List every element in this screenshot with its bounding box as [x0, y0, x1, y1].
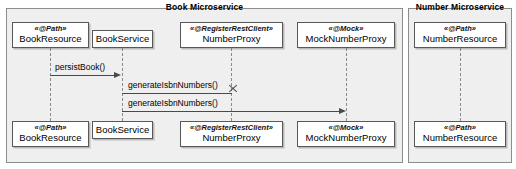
participant-number-proxy-bottom[interactable]: «@RegisterRestClient» NumberProxy: [180, 121, 283, 147]
message-generate-isbn-2-line: [122, 111, 340, 112]
participant-name: MockNumberProxy: [306, 133, 387, 144]
participant-mock-number-proxy-bottom[interactable]: «@Mock» MockNumberProxy: [297, 121, 395, 147]
message-generate-isbn-1-line: [122, 93, 232, 94]
participant-number-proxy-top[interactable]: «@RegisterRestClient» NumberProxy: [180, 22, 283, 48]
frame-number-microservice-title: Number Microservice: [408, 2, 512, 12]
message-generate-isbn-2-label: generateIsbnNumbers(): [128, 98, 218, 108]
message-persist-book-label: persistBook(): [55, 62, 105, 72]
message-persist-book-arrowhead: [114, 72, 121, 78]
participant-book-resource-bottom[interactable]: «@Path» BookResource: [12, 121, 89, 147]
lifeline-mock-number-proxy: [346, 48, 347, 121]
sequence-diagram-canvas: Book Microservice Number Microservice «@…: [0, 0, 516, 169]
participant-name: NumberResource: [423, 133, 497, 144]
participant-book-service-top[interactable]: BookService: [92, 30, 153, 48]
lifeline-book-resource: [50, 48, 51, 121]
participant-name: BookResource: [19, 133, 81, 144]
participant-book-service-bottom[interactable]: BookService: [92, 121, 153, 139]
message-blocked-x-icon: [228, 84, 237, 93]
lifeline-number-resource: [460, 48, 461, 121]
participant-mock-number-proxy-top[interactable]: «@Mock» MockNumberProxy: [297, 22, 395, 48]
participant-name: MockNumberProxy: [306, 34, 387, 45]
participant-name: NumberProxy: [202, 34, 260, 45]
message-persist-book-line: [50, 75, 115, 76]
participant-name: BookService: [96, 125, 149, 136]
participant-name: BookResource: [19, 34, 81, 45]
frame-book-microservice-title: Book Microservice: [6, 2, 403, 12]
participant-number-resource-top[interactable]: «@Path» NumberResource: [414, 22, 506, 48]
participant-name: NumberResource: [423, 34, 497, 45]
participant-name: NumberProxy: [202, 133, 260, 144]
participant-name: BookService: [96, 34, 149, 45]
participant-number-resource-bottom[interactable]: «@Path» NumberResource: [414, 121, 506, 147]
message-generate-isbn-1-label: generateIsbnNumbers(): [128, 80, 218, 90]
participant-book-resource-top[interactable]: «@Path» BookResource: [12, 22, 89, 48]
message-generate-isbn-2-arrowhead: [339, 108, 346, 114]
